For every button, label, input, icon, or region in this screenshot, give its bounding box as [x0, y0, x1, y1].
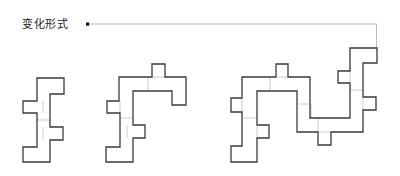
variation-2-guides [120, 77, 165, 138]
variation-3-shape [231, 48, 377, 162]
leader-marker [86, 23, 89, 26]
variation-2-shape [106, 64, 186, 162]
variation-3-outline [231, 48, 377, 162]
variation-2-outline [106, 64, 186, 162]
variation-3-guides [242, 71, 363, 138]
leader-line [89, 24, 377, 48]
variation-diagram [0, 0, 400, 176]
variation-1-shape [23, 78, 64, 162]
variation-1-guides [37, 101, 50, 140]
